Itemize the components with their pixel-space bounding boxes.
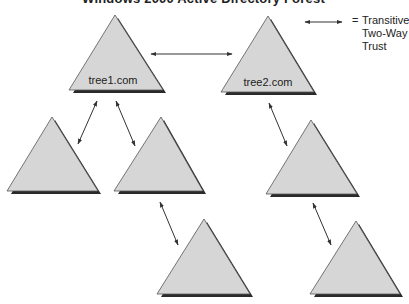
- trust-arrow-t4-t6: [160, 202, 178, 245]
- tree-triangle: [7, 117, 98, 191]
- trust-arrow-t1-t4: [116, 101, 135, 146]
- tree-triangle: [266, 120, 357, 194]
- legend-equals: =: [352, 14, 362, 27]
- legend-line-2: Two-Way: [352, 27, 409, 40]
- tree-triangle: [157, 219, 250, 294]
- legend-line-3: Trust: [352, 40, 409, 53]
- legend: =Transitive Two-Way Trust: [352, 14, 409, 53]
- tree-label: tree1.com: [89, 74, 138, 86]
- legend-line-1: Transitive: [362, 14, 409, 26]
- tree-t2: tree2.com: [221, 16, 317, 95]
- tree-t6: [157, 219, 253, 297]
- tree-triangle: [310, 221, 400, 294]
- trust-arrow-t5-t7: [313, 203, 331, 245]
- tree-t7: [310, 221, 403, 297]
- tree-t3: [7, 117, 101, 194]
- trust-arrow-t1-t3: [78, 101, 97, 144]
- tree-t5: [266, 120, 360, 197]
- trust-arrow-t2-t5: [269, 103, 287, 146]
- tree-label: tree2.com: [244, 76, 293, 88]
